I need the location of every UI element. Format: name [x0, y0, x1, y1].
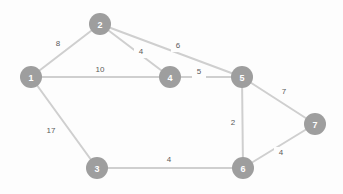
node-label: 6: [240, 164, 245, 174]
node-label: 7: [312, 120, 317, 130]
node-label: 5: [239, 73, 244, 83]
graph-diagram: 810174657244 1234567: [0, 0, 343, 194]
graph-edge: [242, 77, 243, 168]
edge-weight-label: 2: [231, 118, 236, 127]
graph-node-6[interactable]: 6: [232, 157, 254, 179]
node-label: 2: [97, 20, 102, 30]
edge-weight-label: 4: [167, 155, 172, 164]
graph-node-2[interactable]: 2: [89, 13, 111, 35]
graph-edge: [31, 77, 97, 168]
node-label: 1: [28, 73, 33, 83]
node-label: 4: [167, 73, 172, 83]
edge-weight-label: 7: [282, 87, 287, 96]
edge-weight-label: 4: [279, 148, 284, 157]
graph-node-3[interactable]: 3: [86, 157, 108, 179]
graph-edge: [31, 24, 100, 77]
graph-node-5[interactable]: 5: [231, 66, 253, 88]
node-label: 3: [94, 164, 99, 174]
graph-svg-surface: 810174657244 1234567: [0, 0, 343, 194]
graph-edge: [243, 124, 315, 168]
edge-weight-label: 5: [197, 67, 202, 76]
edge-weight-label: 10: [96, 65, 105, 74]
graph-node-1[interactable]: 1: [20, 66, 42, 88]
edge-weight-label: 17: [47, 126, 56, 135]
graph-node-7[interactable]: 7: [304, 113, 326, 135]
edge-weight-label: 6: [176, 41, 181, 50]
graph-node-4[interactable]: 4: [159, 66, 181, 88]
edge-weight-label: 8: [56, 39, 61, 48]
graph-edge: [242, 77, 315, 124]
edge-weight-label: 4: [139, 47, 144, 56]
